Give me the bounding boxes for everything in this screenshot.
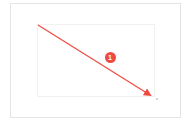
arrow-icon [0, 0, 192, 125]
step-number-label: 1 [108, 54, 112, 61]
drag-end-point [156, 98, 158, 100]
screenshot-canvas: 1 [0, 0, 192, 125]
step-number-badge: 1 [105, 52, 116, 63]
